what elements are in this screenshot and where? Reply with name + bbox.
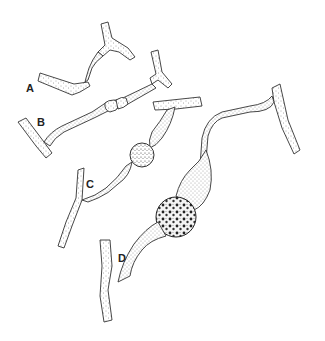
- stage-c-upper-hypha: [149, 97, 202, 148]
- label-b: B: [37, 116, 45, 128]
- stage-c-hyphae: [58, 143, 154, 248]
- label-d: D: [118, 252, 126, 264]
- label-c: C: [86, 178, 94, 190]
- illustration-canvas: [0, 0, 325, 341]
- stage-d-hyphae: [100, 84, 300, 322]
- hyphae-illustration: A B C D: [0, 0, 325, 341]
- stage-a-hyphae: [38, 22, 135, 95]
- label-a: A: [26, 82, 34, 94]
